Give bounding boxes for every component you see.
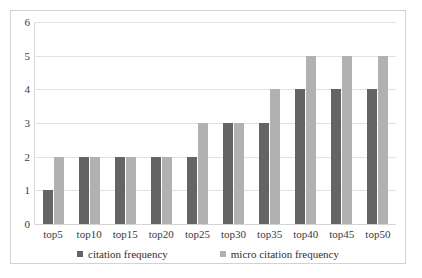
bar-series-container: [35, 22, 396, 224]
chart-frame: 0123456 top5top10top15top20top25top30top…: [10, 10, 406, 264]
x-axis-tick-label: top50: [360, 227, 396, 245]
legend-label: micro citation frequency: [231, 248, 339, 260]
x-axis-tick-label: top5: [35, 227, 71, 245]
y-axis-tick-label: 1: [14, 185, 30, 196]
bar-group: [71, 22, 107, 224]
bar: [54, 157, 64, 224]
bar-group: [360, 22, 396, 224]
x-axis: top5top10top15top20top25top30top35top40t…: [35, 227, 396, 245]
legend-label: citation frequency: [88, 248, 168, 260]
x-axis-tick-label: top30: [215, 227, 251, 245]
bar: [198, 123, 208, 224]
bar: [331, 89, 341, 224]
bar-group: [252, 22, 288, 224]
y-axis-tick-label: 3: [14, 118, 30, 129]
bar: [378, 56, 388, 224]
x-axis-tick-label: top15: [107, 227, 143, 245]
bar: [151, 157, 161, 224]
y-axis-tick-label: 5: [14, 51, 30, 62]
bar: [187, 157, 197, 224]
bar: [90, 157, 100, 224]
bar: [43, 190, 53, 224]
bar: [270, 89, 280, 224]
legend-item[interactable]: micro citation frequency: [220, 248, 339, 260]
bar-group: [179, 22, 215, 224]
bar: [342, 56, 352, 224]
x-axis-tick-label: top10: [71, 227, 107, 245]
x-axis-tick-label: top35: [252, 227, 288, 245]
bar: [367, 89, 377, 224]
legend-item[interactable]: citation frequency: [77, 248, 168, 260]
y-axis-tick-label: 6: [14, 17, 30, 28]
bar: [234, 123, 244, 224]
bar-group: [324, 22, 360, 224]
bar-group: [143, 22, 179, 224]
bar: [162, 157, 172, 224]
y-axis: 0123456: [11, 22, 30, 224]
bar: [223, 123, 233, 224]
y-axis-tick-label: 2: [14, 152, 30, 163]
bar: [126, 157, 136, 224]
bar-group: [288, 22, 324, 224]
bar-group: [107, 22, 143, 224]
x-axis-tick-label: top40: [288, 227, 324, 245]
bar-group: [35, 22, 71, 224]
legend-swatch-icon: [77, 251, 83, 257]
legend-swatch-icon: [220, 251, 226, 257]
y-axis-tick-label: 0: [14, 219, 30, 230]
y-axis-tick-label: 4: [14, 84, 30, 95]
bar: [295, 89, 305, 224]
bar: [79, 157, 89, 224]
bar: [306, 56, 316, 224]
bar-group: [215, 22, 251, 224]
bar: [259, 123, 269, 224]
x-axis-tick-label: top25: [179, 227, 215, 245]
x-axis-tick-label: top45: [324, 227, 360, 245]
chart-legend: citation frequencymicro citation frequen…: [11, 248, 405, 260]
gridline: [34, 224, 396, 225]
bar: [115, 157, 125, 224]
x-axis-tick-label: top20: [143, 227, 179, 245]
